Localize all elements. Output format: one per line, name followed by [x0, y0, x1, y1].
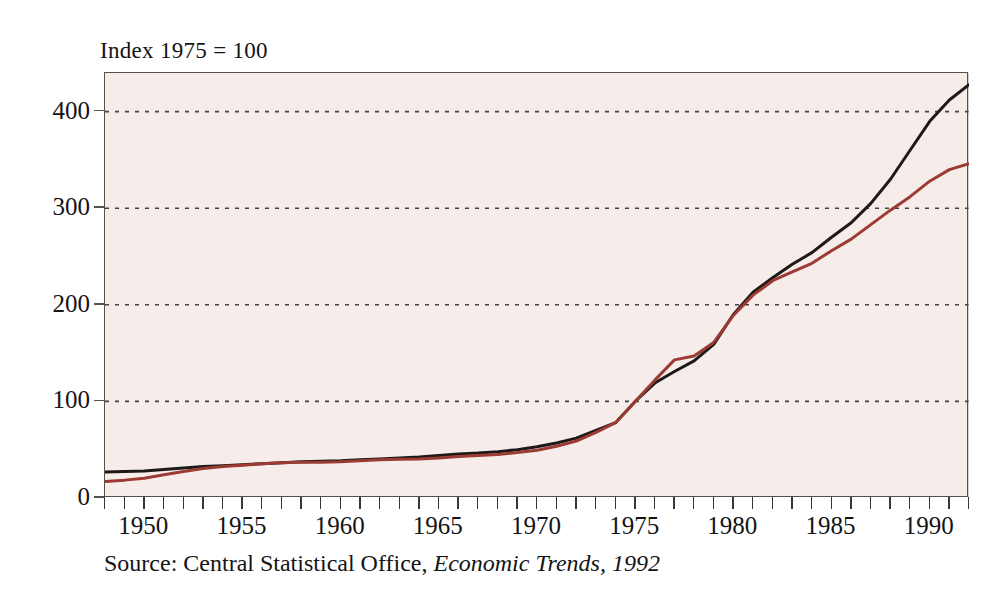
x-tick-label: 1965	[413, 512, 463, 540]
x-axis-tick-group	[104, 497, 970, 510]
x-tick-mark	[241, 497, 242, 509]
x-tick-mark	[732, 497, 733, 509]
x-tick-mark	[281, 497, 282, 509]
x-tick-mark	[752, 497, 753, 509]
x-tick-mark	[497, 497, 498, 509]
plot-area	[104, 72, 968, 497]
x-tick-mark	[654, 497, 655, 509]
y-axis-label-group: 0100200300400	[0, 0, 104, 600]
x-tick-mark	[359, 497, 360, 509]
x-tick-mark	[870, 497, 871, 509]
x-tick-mark	[536, 497, 537, 509]
x-tick-mark	[320, 497, 321, 509]
x-tick-mark	[595, 497, 596, 509]
x-tick-mark	[183, 497, 184, 509]
x-tick-mark	[693, 497, 694, 509]
x-tick-label: 1955	[216, 512, 266, 540]
x-tick-mark	[104, 497, 105, 509]
x-tick-mark	[477, 497, 478, 509]
x-tick-mark	[516, 497, 517, 509]
x-tick-mark	[143, 497, 144, 509]
x-tick-mark	[909, 497, 910, 509]
y-tick-label: 100	[53, 386, 91, 414]
series-line-black-series	[105, 85, 969, 472]
chart-figure: Index 1975 = 100 0100200300400 195019551…	[0, 0, 1004, 600]
x-tick-mark	[615, 497, 616, 509]
x-tick-label: 1985	[806, 512, 856, 540]
x-tick-label: 1980	[707, 512, 757, 540]
x-tick-mark	[379, 497, 380, 509]
series-line-red-series	[105, 164, 969, 482]
plot-svg	[105, 73, 969, 498]
x-tick-label: 1960	[315, 512, 365, 540]
x-tick-label: 1970	[511, 512, 561, 540]
x-axis-label-group: 195019551960196519701975198019851990	[0, 512, 1004, 546]
x-tick-mark	[418, 497, 419, 509]
x-tick-mark	[850, 497, 851, 509]
y-tick-label: 200	[53, 290, 91, 318]
x-tick-mark	[124, 497, 125, 509]
x-tick-mark	[791, 497, 792, 509]
x-tick-mark	[673, 497, 674, 509]
source-caption-plain: Source: Central Statistical Office,	[104, 550, 427, 576]
x-tick-label: 1975	[609, 512, 659, 540]
x-tick-mark	[634, 497, 635, 509]
x-tick-mark	[340, 497, 341, 509]
index-note-label: Index 1975 = 100	[100, 38, 268, 64]
x-tick-mark	[948, 497, 949, 509]
x-tick-mark	[929, 497, 930, 509]
x-tick-mark	[457, 497, 458, 509]
x-tick-mark	[575, 497, 576, 509]
y-tick-label: 400	[53, 97, 91, 125]
x-tick-mark	[772, 497, 773, 509]
source-caption-italic: Economic Trends, 1992	[433, 550, 659, 576]
x-tick-mark	[556, 497, 557, 509]
x-tick-mark	[399, 497, 400, 509]
x-tick-mark	[713, 497, 714, 509]
x-tick-mark	[831, 497, 832, 509]
x-tick-mark	[889, 497, 890, 509]
y-tick-label: 300	[53, 193, 91, 221]
x-tick-label: 1990	[904, 512, 954, 540]
x-tick-mark	[811, 497, 812, 509]
source-caption: Source: Central Statistical Office, Econ…	[104, 550, 660, 577]
x-tick-mark	[261, 497, 262, 509]
y-tick-label: 0	[78, 483, 91, 511]
x-tick-mark	[163, 497, 164, 509]
x-tick-mark	[300, 497, 301, 509]
x-tick-mark	[202, 497, 203, 509]
x-tick-mark	[222, 497, 223, 509]
x-tick-mark	[438, 497, 439, 509]
x-tick-label: 1950	[118, 512, 168, 540]
x-tick-mark	[968, 497, 969, 509]
